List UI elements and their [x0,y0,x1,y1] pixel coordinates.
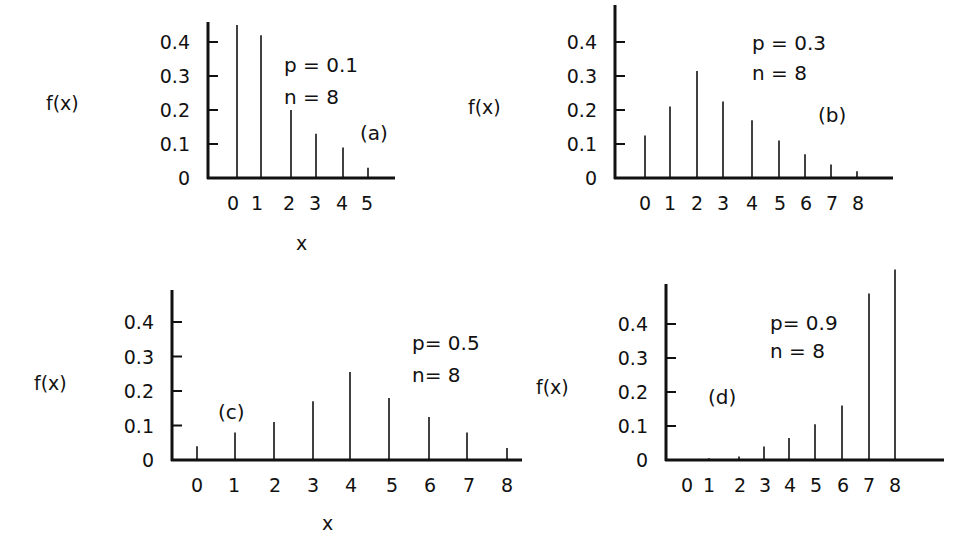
panel-c-chart: 00.10.20.30.4 012345678 f(x) x p= 0.5 n=… [34,290,522,534]
x-tick-label: 5 [386,474,398,496]
panel-c-xlabel: x [322,512,333,534]
y-tick-label: 0.1 [160,133,190,155]
x-tick-label: 2 [734,474,746,496]
y-tick-label: 0.3 [160,65,190,87]
x-tick-label: 3 [309,192,321,214]
panel-d-ylabel: f(x) [536,376,569,398]
x-tick-label: 2 [283,192,295,214]
x-tick-label: 8 [501,474,513,496]
y-tick-label: 0.2 [618,381,648,403]
panel-b-n-label: n = 8 [752,61,807,85]
panel-a-xlabel: x [296,232,307,254]
y-tick-label: 0.3 [567,65,597,87]
y-tick-label: 0 [585,167,597,189]
x-tick-label: 5 [810,474,822,496]
x-tick-label: 4 [345,474,357,496]
y-tick-label: 0.2 [160,99,190,121]
y-tick-label: 0.4 [160,31,190,53]
panel-c-n-label: n= 8 [412,363,461,387]
x-tick-label: 6 [424,474,436,496]
y-tick-label: 0.4 [567,31,597,53]
y-tick-label: 0.3 [124,346,154,368]
binomial-distribution-figure: 00.10.20.30.4 012345 f(x) x p = 0.1 n = … [0,0,973,558]
x-tick-label: 8 [889,474,901,496]
x-tick-label: 0 [227,192,239,214]
panel-d-tag: (d) [708,385,736,409]
x-tick-label: 0 [681,474,693,496]
panel-d-x-ticks: 012345678 [681,474,901,496]
y-tick-label: 0.1 [124,415,154,437]
x-tick-label: 6 [837,474,849,496]
panel-a-n-label: n = 8 [284,85,339,109]
y-tick-label: 0.4 [124,311,154,333]
x-tick-label: 5 [361,192,373,214]
panel-b-tag: (b) [818,103,846,127]
x-tick-label: 5 [774,192,786,214]
panel-c-axes [171,290,522,461]
panel-a-p-label: p = 0.1 [284,53,358,77]
y-tick-label: 0.4 [618,313,648,335]
panel-a-tag: (a) [360,121,388,145]
x-tick-label: 1 [703,474,715,496]
x-tick-label: 3 [307,474,319,496]
panel-c-p-label: p= 0.5 [412,331,480,355]
x-tick-label: 8 [852,192,864,214]
panel-c-x-ticks: 012345678 [191,474,513,496]
x-tick-label: 4 [784,474,796,496]
panel-b-p-label: p = 0.3 [752,31,826,55]
panel-d-p-label: p= 0.9 [770,311,838,335]
x-tick-label: 7 [463,474,475,496]
panel-b-x-ticks: 012345678 [639,192,864,214]
y-tick-label: 0 [636,449,648,471]
x-tick-label: 1 [228,474,240,496]
x-tick-label: 2 [269,474,281,496]
y-tick-label: 0 [142,449,154,471]
panel-c-tag: (c) [218,400,245,424]
x-tick-label: 1 [251,192,263,214]
x-tick-label: 3 [759,474,771,496]
y-tick-label: 0.3 [618,347,648,369]
x-tick-label: 4 [746,192,758,214]
x-tick-label: 1 [664,192,676,214]
panel-a-ylabel: f(x) [46,92,79,114]
y-tick-label: 0.2 [124,380,154,402]
panel-d-chart: 00.10.20.30.4 012345678 f(x) p= 0.9 n = … [536,270,944,496]
panel-b-ylabel: f(x) [468,96,501,118]
panel-a-chart: 00.10.20.30.4 012345 f(x) x p = 0.1 n = … [46,22,395,254]
x-tick-label: 4 [336,192,348,214]
panel-c-ylabel: f(x) [34,372,67,394]
x-tick-label: 6 [800,192,812,214]
y-tick-label: 0 [178,167,190,189]
panel-d-bars [709,270,895,460]
x-tick-label: 3 [717,192,729,214]
y-tick-label: 0.2 [567,99,597,121]
x-tick-label: 0 [639,192,651,214]
panel-d-n-label: n = 8 [770,339,825,363]
panel-b-chart: 00.10.20.30.4 012345678 f(x) p = 0.3 n =… [468,5,893,214]
panel-a-x-ticks: 012345 [227,192,373,214]
y-tick-label: 0.1 [567,133,597,155]
x-tick-label: 7 [826,192,838,214]
x-tick-label: 0 [191,474,203,496]
x-tick-label: 7 [863,474,875,496]
y-tick-label: 0.1 [618,415,648,437]
x-tick-label: 2 [691,192,703,214]
